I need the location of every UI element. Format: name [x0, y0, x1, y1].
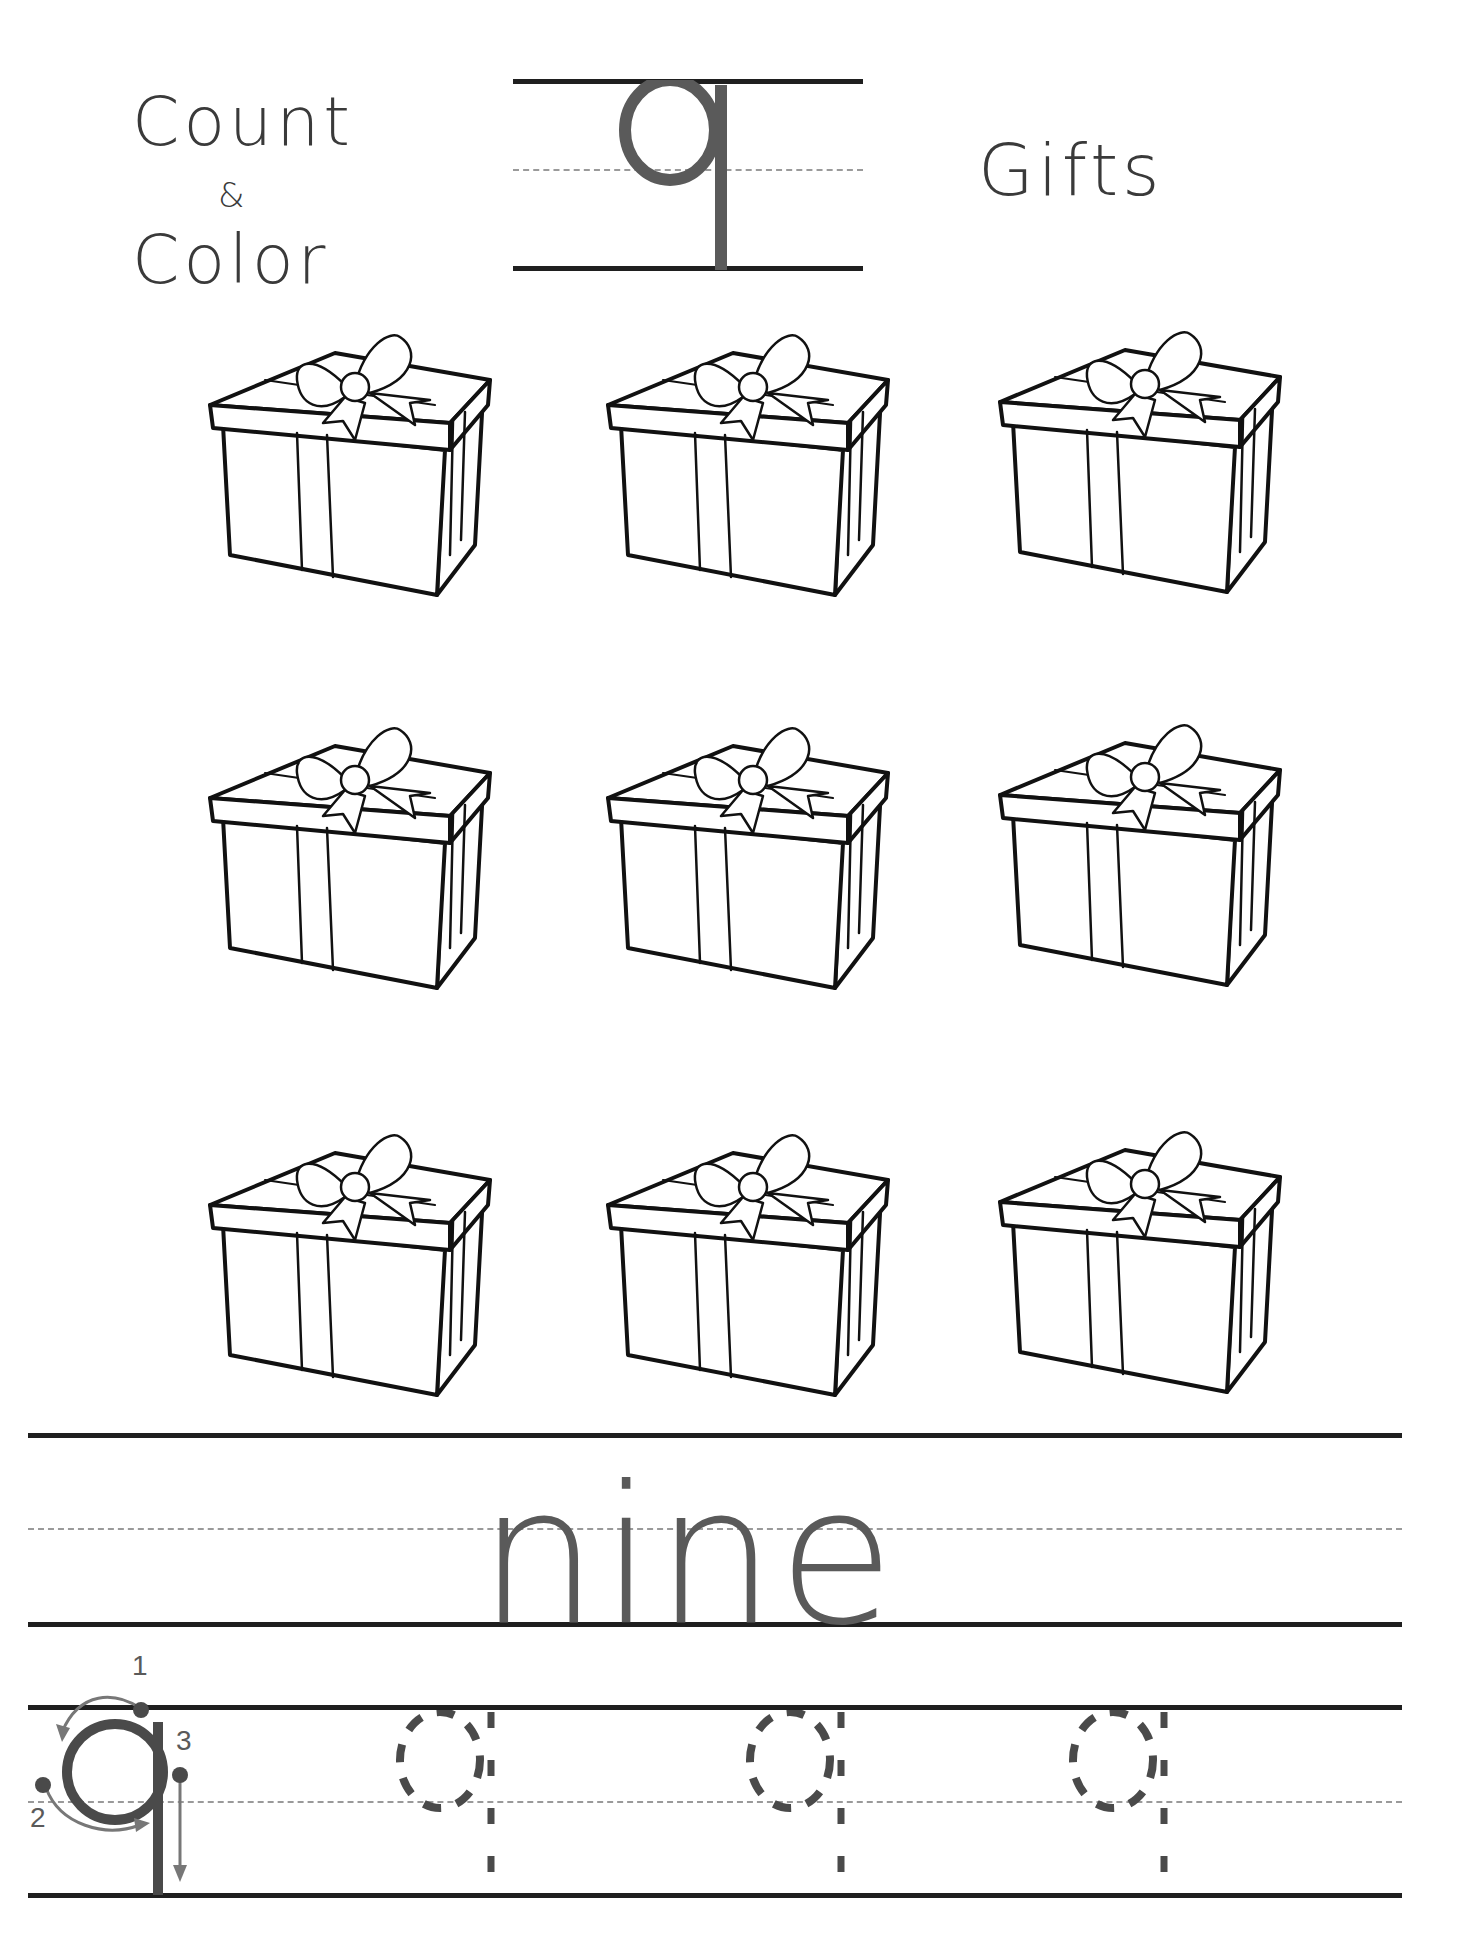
trace-letter-q-2[interactable] — [735, 1710, 855, 1895]
gift-box-6 — [995, 715, 1285, 995]
gift-icon — [205, 1125, 495, 1405]
gift-box-5 — [603, 718, 893, 998]
trace-letter-q-3[interactable] — [1058, 1710, 1178, 1895]
title-count: Count — [132, 82, 354, 161]
gift-icon — [995, 322, 1285, 602]
gift-box-9 — [995, 1122, 1285, 1402]
gift-box-1 — [205, 325, 495, 605]
trace-letter-q-1[interactable] — [385, 1710, 505, 1895]
gift-icon — [995, 1122, 1285, 1402]
gift-icon — [603, 718, 893, 998]
gift-icon — [603, 325, 893, 605]
trace-mid-dashed-line — [28, 1801, 1402, 1803]
stroke-step-3: 3 — [176, 1725, 192, 1757]
title-ampersand: & — [218, 175, 245, 215]
gift-box-7 — [205, 1125, 495, 1405]
stroke-step-2: 2 — [30, 1802, 46, 1834]
stroke-step-1: 1 — [132, 1650, 148, 1682]
trace-baseline — [28, 1893, 1402, 1898]
gift-box-8 — [603, 1125, 893, 1405]
gift-box-2 — [603, 325, 893, 605]
trace-top-line — [28, 1705, 1402, 1710]
word-top-line — [28, 1433, 1402, 1438]
number-word: nine — [478, 1462, 897, 1652]
subject-title: Gifts — [978, 128, 1164, 212]
gift-icon — [603, 1125, 893, 1405]
gift-icon — [995, 715, 1285, 995]
gift-box-4 — [205, 718, 495, 998]
gift-icon — [205, 718, 495, 998]
gift-icon — [205, 325, 495, 605]
model-letter-q-with-stroke-order — [20, 1650, 220, 1900]
gift-box-3 — [995, 322, 1285, 602]
header-letter-q — [600, 80, 740, 270]
title-color: Color — [132, 220, 330, 299]
